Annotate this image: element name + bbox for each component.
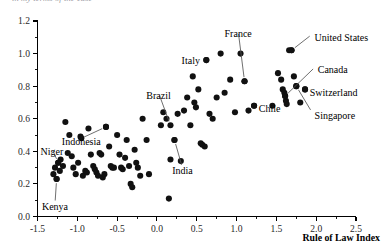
data-point-labeled (302, 86, 308, 92)
data-point (62, 119, 68, 125)
x-axis-title: Rule of Law Index (302, 232, 380, 243)
data-point (126, 163, 132, 169)
annotation-label: Niger (40, 146, 63, 157)
data-point (70, 165, 76, 171)
y-tick-label: 0.8 (18, 81, 30, 92)
data-point (69, 153, 75, 159)
data-point (88, 152, 94, 158)
data-point-labeled (171, 137, 177, 143)
data-point (106, 143, 112, 149)
annotation-leader-line (55, 183, 56, 200)
scatter-plot-figure: in my terms of the case 0.00.20.40.60.81… (0, 0, 388, 247)
annotation-label: Indonesia (62, 136, 101, 147)
data-point (181, 108, 187, 114)
data-point-labeled (288, 47, 294, 53)
data-point (75, 160, 81, 166)
data-point (278, 77, 284, 83)
annotation-label: Singapore (315, 110, 356, 121)
annotation-label: India (172, 165, 193, 176)
data-point (227, 77, 233, 83)
data-point (190, 73, 196, 79)
y-tick-label: 0.4 (18, 146, 30, 157)
annotation-label: Chile (259, 103, 281, 114)
data-point (214, 95, 220, 101)
data-point (195, 86, 201, 92)
x-tick-label: 0.0 (151, 223, 163, 234)
y-tick-label: 0.0 (18, 211, 30, 222)
data-point (111, 165, 117, 171)
data-point (84, 169, 90, 175)
y-tick-label: 1.2 (18, 15, 30, 26)
data-point (120, 166, 126, 172)
annotation-label: Canada (318, 64, 349, 75)
data-point-labeled (167, 122, 173, 128)
data-point (232, 109, 238, 115)
data-point (114, 132, 120, 138)
x-tick-label: 1.5 (270, 223, 282, 234)
data-point (158, 122, 164, 128)
annotation-label: Brazil (146, 90, 171, 101)
data-point (146, 171, 152, 177)
data-point-labeled (203, 57, 209, 63)
annotation-label: Kenya (42, 201, 69, 212)
data-point-labeled (103, 124, 109, 130)
y-tick-label: 0.2 (18, 178, 30, 189)
data-point (245, 108, 251, 114)
data-point-labeled (241, 78, 247, 84)
data-point-labeled (282, 93, 288, 99)
data-point (202, 143, 208, 149)
x-tick-label: -1.5 (30, 223, 45, 234)
data-point (291, 73, 297, 79)
data-point (275, 70, 281, 76)
data-point (73, 171, 79, 177)
data-point (116, 152, 122, 158)
x-tick-label: -0.5 (110, 223, 125, 234)
data-point-labeled (55, 160, 61, 166)
data-point (98, 152, 104, 158)
data-point (222, 90, 228, 96)
data-point (184, 95, 190, 101)
plot-canvas: 0.00.20.40.60.81.01.2 -1.5-1.0-0.50.00.5… (0, 0, 388, 247)
data-point (85, 125, 91, 131)
data-point (193, 104, 199, 110)
x-tick-label: 0.5 (191, 223, 203, 234)
data-point (129, 184, 135, 190)
y-tick-label: 0.6 (18, 113, 30, 124)
data-points-layer (50, 47, 308, 201)
annotation-label: Italy (182, 55, 200, 66)
x-tick-label: 1.0 (231, 223, 243, 234)
data-point (297, 99, 303, 105)
annotation-label: France (225, 28, 253, 39)
data-point (218, 51, 224, 57)
data-point-labeled (54, 176, 60, 182)
data-point (101, 171, 107, 177)
data-point-labeled (251, 103, 257, 109)
annotation-leader-line (295, 36, 310, 48)
data-point (140, 116, 146, 122)
data-point (137, 173, 143, 179)
annotation-label: Switzerland (310, 87, 358, 98)
data-point (122, 155, 128, 161)
y-axis: 0.00.20.40.60.81.01.2 (18, 15, 38, 222)
data-point-labeled (293, 83, 299, 89)
data-point (132, 147, 138, 153)
data-point (187, 122, 193, 128)
annotation-label: United States (315, 32, 369, 43)
data-point (124, 137, 130, 143)
data-point (166, 196, 172, 202)
y-tick-label: 1.0 (18, 48, 30, 59)
data-point (210, 116, 216, 122)
x-tick-label: -1.0 (70, 223, 85, 234)
data-point (167, 156, 173, 162)
data-point (135, 165, 141, 171)
data-point (284, 101, 290, 107)
data-point (175, 111, 181, 117)
data-point (144, 137, 150, 143)
annotation-labels-layer: United StatesFranceItalyCanadaSwitzerlan… (40, 28, 368, 212)
